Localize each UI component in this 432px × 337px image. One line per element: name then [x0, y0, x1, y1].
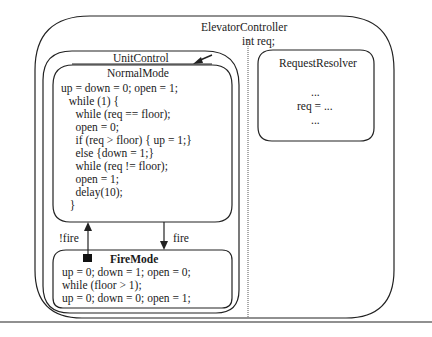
transition-fire-arrowhead: [160, 241, 168, 250]
normal-mode-title: NormalMode: [107, 67, 169, 79]
code-line: while (req == floor);: [64, 108, 171, 120]
code-line: req = ...: [297, 100, 333, 112]
code-line: if (req > floor) { up = 1;}: [64, 134, 192, 146]
unit-control-title: UnitControl: [113, 52, 169, 64]
elevator-controller-declaration: int req;: [242, 35, 275, 47]
code-line: up = 0; down = 1; open = 0;: [62, 266, 191, 278]
code-line: ...: [311, 86, 320, 98]
code-line: open = 1;: [64, 173, 119, 185]
fire-mode-initial-marker: [83, 254, 92, 262]
request-resolver-title: RequestResolver: [279, 57, 357, 69]
code-line: while (floor > 1);: [62, 279, 142, 291]
code-line: ...: [311, 114, 320, 126]
code-line: up = 0; down = 0; open = 1;: [62, 292, 191, 304]
transition-label-not-fire: !fire: [59, 232, 79, 244]
code-line: else {down = 1;}: [64, 147, 154, 159]
elevator-controller-title: ElevatorController: [201, 21, 287, 33]
code-line: open = 0;: [64, 121, 119, 133]
code-line: up = down = 0; open = 1;: [61, 82, 178, 94]
code-line: while (1) {: [63, 95, 119, 107]
transition-not-fire-arrowhead: [84, 222, 92, 231]
initial-arrow-head: [193, 57, 203, 64]
code-line: delay(10);: [64, 186, 123, 198]
transition-label-fire: fire: [173, 232, 189, 244]
fire-mode-title: FireMode: [110, 253, 158, 265]
code-line: while (req != floor);: [64, 160, 168, 172]
code-line: }: [64, 199, 75, 211]
